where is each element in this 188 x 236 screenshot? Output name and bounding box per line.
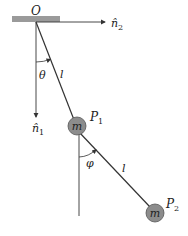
double-pendulum-diagram: m m O n̂2 n̂1 θ l P1 φ l P2 bbox=[0, 0, 188, 236]
p1-label: P1 bbox=[89, 110, 103, 126]
theta-angle-arc bbox=[36, 59, 51, 62]
phi-label: φ bbox=[86, 157, 94, 170]
mass-p2-label: m bbox=[150, 207, 160, 220]
theta-label: θ bbox=[39, 69, 46, 82]
origin-label: O bbox=[31, 4, 41, 18]
phi-angle-arc bbox=[79, 150, 96, 158]
n2-label: n̂2 bbox=[111, 17, 123, 32]
length-2-label: l bbox=[122, 162, 126, 175]
p2-label: P2 bbox=[165, 197, 179, 213]
mass-p1-label: m bbox=[72, 120, 82, 133]
length-1-label: l bbox=[60, 68, 64, 81]
n1-label: n̂1 bbox=[32, 122, 44, 137]
